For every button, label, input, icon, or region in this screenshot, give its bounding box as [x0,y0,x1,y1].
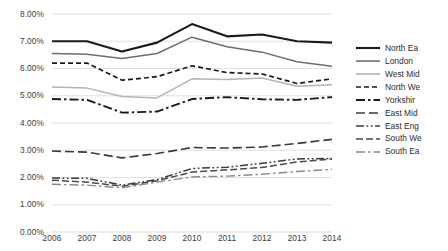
series-line [52,78,332,98]
legend-line-swatch [356,134,380,144]
legend-item[interactable]: North We [356,81,448,94]
y-axis-tick-label: 8.00% [0,10,44,18]
legend-label: Yorkshir [385,96,415,104]
x-axis-tick-label: 2013 [277,234,317,242]
grid-and-series-layer [52,14,332,232]
series-lines [52,24,332,188]
x-axis-tick-label: 2010 [172,234,212,242]
legend-label: East Mid [385,109,418,117]
legend-item[interactable]: East Mid [356,106,448,119]
legend-label: North We [385,83,420,91]
legend: North EaLondonWest MidNorth WeYorkshirEa… [356,42,448,158]
legend-item[interactable]: East Eng [356,119,448,132]
y-axis-tick-label: 4.00% [0,119,44,127]
line-chart: 0.00%1.00%2.00%3.00%4.00%5.00%6.00%7.00%… [0,0,448,251]
legend-label: West Mid [385,70,420,78]
x-axis-tick-label: 2011 [207,234,247,242]
legend-line-swatch [356,43,380,53]
x-axis-tick-label: 2006 [32,234,72,242]
y-axis: 0.00%1.00%2.00%3.00%4.00%5.00%6.00%7.00%… [0,0,48,251]
legend-line-swatch [356,56,380,66]
legend-item[interactable]: North Ea [356,42,448,55]
legend-item[interactable]: Yorkshir [356,94,448,107]
x-axis-tick-label: 2014 [312,234,352,242]
x-axis-tick-label: 2012 [242,234,282,242]
legend-item[interactable]: South Ea [356,145,448,158]
y-axis-tick-label: 2.00% [0,173,44,181]
y-axis-tick-label: 5.00% [0,91,44,99]
gridlines [52,14,332,232]
y-axis-tick-label: 3.00% [0,146,44,154]
legend-label: East Eng [385,122,419,130]
series-line [52,63,332,83]
x-axis-tick-label: 2008 [102,234,142,242]
series-line [52,97,332,113]
legend-label: North Ea [385,44,418,52]
legend-label: London [385,57,413,65]
legend-item[interactable]: London [356,55,448,68]
y-axis-tick-label: 1.00% [0,200,44,208]
legend-line-swatch [356,108,380,118]
y-axis-tick-label: 6.00% [0,64,44,72]
legend-item[interactable]: South We [356,132,448,145]
x-axis: 200620072008200920102011201220132014 [52,234,332,250]
legend-line-swatch [356,82,380,92]
legend-label: South Ea [385,147,419,155]
series-line [52,139,332,158]
plot-area [52,14,332,232]
series-line [52,159,332,186]
x-axis-tick-label: 2007 [67,234,107,242]
legend-line-swatch [356,95,380,105]
legend-label: South We [385,134,422,142]
y-axis-tick-label: 7.00% [0,37,44,45]
x-axis-tick-label: 2009 [137,234,177,242]
legend-line-swatch [356,147,380,157]
legend-line-swatch [356,69,380,79]
legend-item[interactable]: West Mid [356,68,448,81]
legend-line-swatch [356,121,380,131]
